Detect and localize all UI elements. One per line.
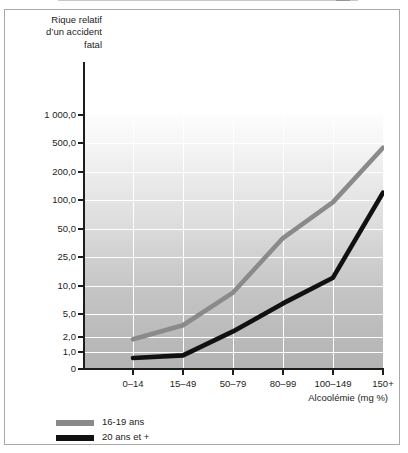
chart-legend: 16-19 ans 20 ans et + [56, 416, 306, 446]
legend-label-20-ans-et-plus: 20 ans et + [102, 431, 149, 442]
legend-swatch-20-ans-et-plus [56, 435, 94, 441]
y-axis-tick [78, 114, 85, 115]
x-axis-title: Alcoolémie (mg %) [248, 392, 388, 403]
y-axis-tick [78, 285, 85, 286]
x-axis-tick-label: 150+ [348, 378, 408, 389]
y-axis-tick [78, 171, 85, 172]
cropped-ink-mark [336, 0, 350, 1]
x-axis-tick [182, 369, 183, 375]
series-line-16-19-ans [133, 148, 383, 340]
y-axis-tick [78, 256, 85, 257]
y-axis-tick-label: 100,0 [16, 194, 76, 205]
legend-swatch-16-19-ans [56, 420, 94, 426]
y-axis-tick-label: 10,0 [16, 280, 76, 291]
y-axis-tick [78, 199, 85, 200]
y-axis-tick-label: 200,0 [16, 166, 76, 177]
x-axis-tick [332, 369, 333, 375]
y-axis-tick-label: 1 000,0 [16, 109, 76, 120]
x-axis-tick [132, 369, 133, 375]
legend-item-20-ans-et-plus: 20 ans et + [56, 431, 306, 446]
y-axis-tick [78, 351, 85, 352]
series-lines [84, 115, 384, 369]
chart-figure: Rique relatif d’un accident fatal Alcool… [0, 0, 408, 453]
cropped-ink-bar [58, 0, 358, 1]
y-axis-tick-label: 1,0 [16, 346, 76, 357]
y-axis-tick-label: 50,0 [16, 223, 76, 234]
x-axis-tick [382, 369, 383, 375]
y-axis-tick [78, 313, 85, 314]
y-axis-tick [78, 142, 85, 143]
series-line-20-ans-et-plus [133, 193, 383, 358]
y-axis-tick-label: 5,0 [16, 308, 76, 319]
y-axis-tick-label: 0 [16, 363, 76, 374]
y-axis-tick-label: 25,0 [16, 251, 76, 262]
y-axis-tick [78, 368, 85, 369]
y-axis-tick [78, 336, 85, 337]
y-axis-tick-label: 2,0 [16, 331, 76, 342]
y-axis-tick [78, 228, 85, 229]
x-axis-tick [232, 369, 233, 375]
y-axis-tick-label: 500,0 [16, 137, 76, 148]
legend-item-16-19-ans: 16-19 ans [56, 416, 306, 431]
legend-label-16-19-ans: 16-19 ans [102, 416, 144, 427]
x-axis-tick [282, 369, 283, 375]
